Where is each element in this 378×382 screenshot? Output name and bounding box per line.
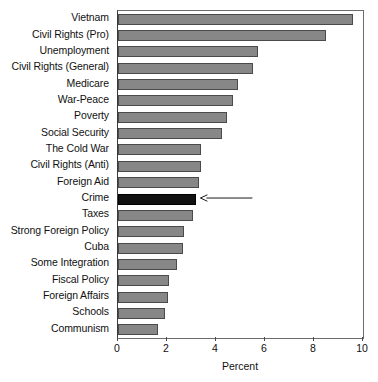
bar (118, 177, 199, 188)
category-label: Civil Rights (General) (11, 61, 109, 72)
category-label: Strong Foreign Policy (11, 225, 109, 236)
plot-area (117, 10, 364, 339)
bar (118, 161, 201, 172)
category-label: Unemployment (40, 45, 109, 56)
category-label: Civil Rights (Anti) (30, 159, 109, 170)
category-label: Taxes (82, 208, 109, 219)
x-tick-mark (264, 337, 265, 341)
x-tick-mark (215, 337, 216, 341)
category-label: Foreign Affairs (43, 290, 109, 301)
category-label: Some Integration (31, 257, 109, 268)
category-label: Poverty (74, 110, 109, 121)
category-label: War-Peace (58, 94, 109, 105)
x-tick-label: 8 (310, 342, 316, 354)
bar (118, 243, 183, 254)
category-label: Communism (51, 323, 109, 334)
category-label: Civil Rights (Pro) (32, 29, 109, 40)
category-label: Crime (82, 192, 110, 203)
bar (118, 128, 222, 139)
category-label-column: VietnamCivil Rights (Pro)UnemploymentCiv… (0, 10, 113, 337)
bar (118, 144, 201, 155)
x-tick-mark (117, 337, 118, 341)
x-tick-mark (313, 337, 314, 341)
x-tick-label: 0 (114, 342, 120, 354)
category-label: The Cold War (46, 143, 109, 154)
bar (118, 226, 184, 237)
x-axis-title: Percent (117, 360, 363, 372)
category-label: Social Security (41, 127, 109, 138)
category-label: Schools (72, 306, 109, 317)
x-tick-mark (362, 337, 363, 341)
bar (118, 308, 165, 319)
bar (118, 324, 158, 335)
category-label: Cuba (84, 241, 109, 252)
bar (118, 30, 326, 41)
x-tick-mark (166, 337, 167, 341)
x-tick-label: 4 (212, 342, 218, 354)
bar (118, 63, 253, 74)
bar (118, 275, 169, 286)
bar (118, 292, 168, 303)
x-tick-label: 2 (163, 342, 169, 354)
category-label: Fiscal Policy (52, 274, 109, 285)
bar (118, 210, 193, 221)
bar (118, 46, 258, 57)
bar (118, 112, 227, 123)
bar-chart: VietnamCivil Rights (Pro)UnemploymentCiv… (0, 0, 378, 382)
bar (118, 95, 233, 106)
bars-container (118, 11, 363, 338)
bar-highlighted (118, 194, 196, 205)
x-tick-label: 6 (261, 342, 267, 354)
bar (118, 259, 177, 270)
bar (118, 79, 238, 90)
bar (118, 14, 353, 25)
x-tick-label: 10 (356, 342, 368, 354)
category-label: Medicare (67, 78, 109, 89)
category-label: Foreign Aid (57, 176, 109, 187)
category-label: Vietnam (71, 12, 109, 23)
